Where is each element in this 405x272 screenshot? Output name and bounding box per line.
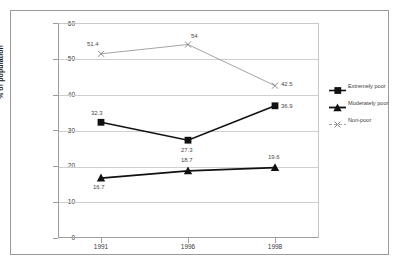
legend-item-extremely-poor[interactable]: Extremely poor <box>329 77 399 94</box>
chart-legend: Extremely poor Moderately poor <box>329 77 399 128</box>
triangle-marker-icon <box>329 98 346 107</box>
square-marker-icon <box>329 81 346 90</box>
legend-label: Moderately poor <box>348 100 388 106</box>
non-poor-markers <box>98 42 278 89</box>
legend-item-non-poor[interactable]: Non-poor <box>329 111 399 128</box>
data-label: 54 <box>191 33 198 39</box>
extremely-poor-line <box>101 106 275 140</box>
data-label: 18.7 <box>181 157 193 163</box>
legend-item-moderately-poor[interactable]: Moderately poor <box>329 94 399 111</box>
non-poor-line <box>101 45 275 86</box>
legend-label: Non-poor <box>348 117 371 123</box>
data-label: 16.7 <box>93 184 105 190</box>
figure-frame: % of population 60 50 40 30 20 10 0 <box>10 10 389 255</box>
data-label: 19.6 <box>268 154 280 160</box>
series-layer <box>11 11 390 256</box>
data-label: 32.3 <box>91 110 103 116</box>
moderately-poor-markers <box>97 163 279 181</box>
data-label: 27.3 <box>181 147 193 153</box>
extremely-poor-markers <box>98 102 279 143</box>
data-label: 36.9 <box>281 103 293 109</box>
legend-label: Extremely poor <box>348 83 386 89</box>
data-label: 42.5 <box>281 81 293 87</box>
data-label: 51.4 <box>87 41 99 47</box>
series-extremely-poor <box>98 102 279 143</box>
y-axis-title: % of population <box>0 45 4 99</box>
chart-screenshot: % of population 60 50 40 30 20 10 0 <box>0 0 405 272</box>
series-non-poor <box>98 42 278 89</box>
cross-marker-icon <box>329 115 346 124</box>
series-moderately-poor <box>97 163 279 181</box>
